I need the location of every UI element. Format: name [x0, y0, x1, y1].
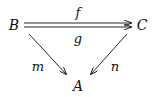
label-f: f: [76, 6, 81, 19]
node-b: B: [9, 18, 19, 32]
node-c: C: [137, 18, 148, 32]
arrow-n: [91, 34, 127, 74]
commutative-diagram: B C A f g m n: [0, 0, 155, 97]
label-n: n: [111, 60, 119, 73]
label-m: m: [32, 60, 44, 73]
node-a: A: [73, 79, 83, 93]
label-g: g: [74, 32, 82, 45]
